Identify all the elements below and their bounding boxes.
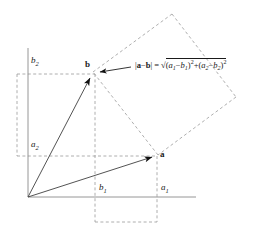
formula-radicand: (a1−b1)2+(a2−b2)2 (166, 58, 227, 70)
vector-a-arrow (28, 157, 152, 197)
figure-canvas (0, 0, 272, 238)
square-edge-top-right (172, 14, 236, 97)
vector-label-b: b (85, 60, 90, 69)
formula-lhs-close: | (150, 60, 152, 70)
square-edge-a-b (93, 72, 158, 155)
formula-term2-exponent: 2 (223, 59, 226, 65)
axis-label-b2: b2 (31, 56, 39, 67)
vector-b-arrow (28, 78, 90, 197)
axis-label-a2: a2 (31, 140, 39, 151)
axis-label-b1: b1 (99, 183, 107, 194)
square-edge-right-a (158, 97, 236, 155)
axis-label-a1: a1 (161, 183, 169, 194)
vector-a-minus-b-arrow (100, 67, 131, 72)
distance-formula: |a−b|=√(a1−b1)2+(a2−b2)2 (135, 59, 226, 72)
vectors (28, 67, 152, 197)
formula-equals: = (154, 60, 159, 70)
difference-square (93, 14, 236, 155)
vector-distance-figure: b2 a2 b1 a1 b a |a−b|=√(a1−b1)2+(a2−b2)2 (0, 0, 272, 238)
vector-label-a: a (160, 150, 165, 159)
